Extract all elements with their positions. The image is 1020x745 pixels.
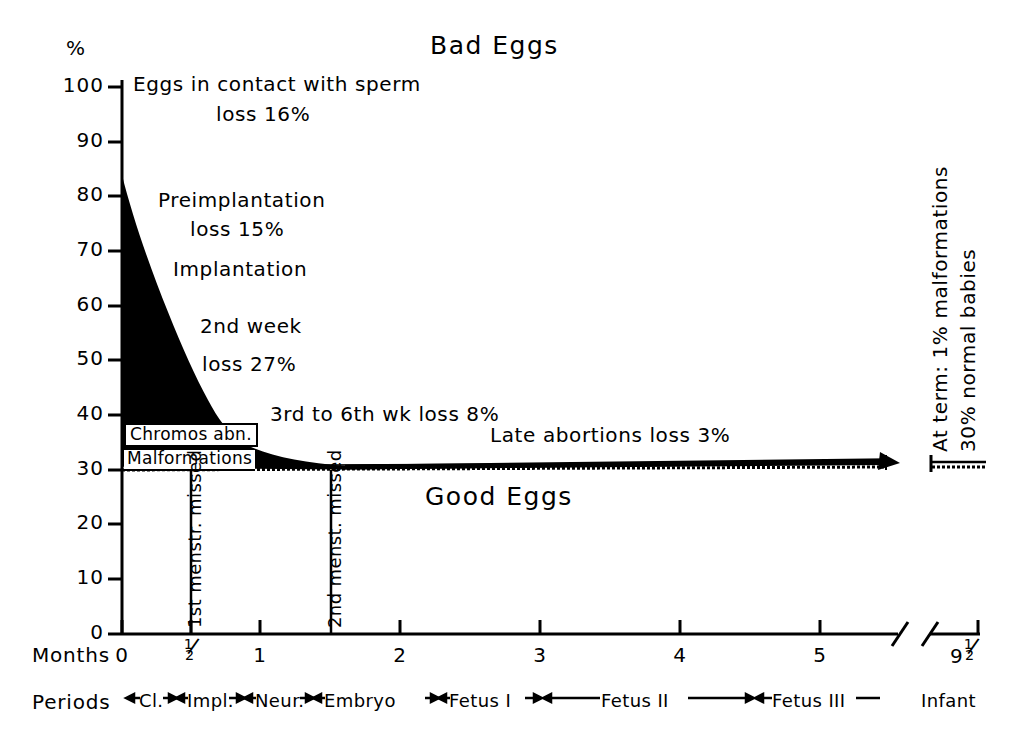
- x-tick-label-1: 1: [245, 645, 275, 666]
- period-label-embryo: Embryo: [324, 692, 396, 711]
- y-tick-label-20: 20: [58, 512, 104, 533]
- figure-canvas: % 100 90 80 70 60 50 40 30 20 10 0 Bad E…: [0, 0, 1020, 745]
- x-tick-label-5: 5: [805, 645, 835, 666]
- period-label-neur: Neur.: [255, 692, 304, 711]
- annotation-implantation: Implantation: [173, 259, 307, 280]
- annotation-late-abortions: Late abortions loss 3%: [490, 425, 730, 446]
- y-tick-label-60: 60: [58, 294, 104, 315]
- period-label-fetus-2: Fetus II: [601, 692, 669, 711]
- period-label-impl: Impl.: [187, 692, 234, 711]
- annotation-2nd-week-line1: 2nd week: [200, 316, 302, 337]
- period-label-fetus-1: Fetus I: [449, 692, 511, 711]
- label-chromos-abn: Chromos abn.: [124, 423, 258, 447]
- annotation-preimplantation-line2: loss 15%: [190, 219, 284, 240]
- x-tick-label-2: 2: [385, 645, 415, 666]
- x-axis-ticks: [122, 620, 978, 634]
- x-tick-label-4: 4: [665, 645, 695, 666]
- y-tick-label-90: 90: [58, 130, 104, 151]
- y-axis-unit-label: %: [66, 38, 86, 59]
- annotation-2nd-week-line2: loss 27%: [202, 354, 296, 375]
- x-axis-name: Months: [32, 645, 110, 666]
- fraction-one-half-2: 1/2: [964, 643, 978, 663]
- annotation-eggs-in-contact-line1: Eggs in contact with sperm: [133, 74, 421, 95]
- y-axis-ticks: [108, 87, 122, 634]
- label-2nd-menst-missed: 2nd menst. missed: [326, 450, 345, 629]
- x-tick-label-0: 0: [107, 645, 137, 666]
- chart-plot-area: [0, 0, 1020, 745]
- y-tick-label-30: 30: [58, 458, 104, 479]
- y-tick-label-50: 50: [58, 348, 104, 369]
- bad-eggs-arrowhead: [878, 452, 900, 470]
- y-tick-label-10: 10: [58, 567, 104, 588]
- period-label-cl: Cl.: [139, 692, 164, 711]
- y-tick-label-0: 0: [58, 622, 104, 643]
- annotation-eggs-in-contact-line2: loss 16%: [216, 104, 310, 125]
- label-at-term-normal-babies: 30% normal babies: [958, 249, 979, 452]
- y-tick-label-80: 80: [58, 184, 104, 205]
- fraction-one-half: 1/2: [184, 643, 198, 663]
- label-1st-menstr-missed: 1st menstr. missed: [186, 450, 205, 628]
- x-tick-label-9-half: 91/2: [950, 643, 978, 667]
- chart-title-good-eggs: Good Eggs: [425, 484, 573, 510]
- period-label-fetus-3: Fetus III: [772, 692, 846, 711]
- label-at-term-malformations: At term: 1% malformations: [930, 166, 951, 452]
- x-tick-label-3: 3: [525, 645, 555, 666]
- y-tick-label-70: 70: [58, 239, 104, 260]
- period-label-infant: Infant: [921, 692, 976, 711]
- x-tick-label-half: 1/2: [176, 643, 206, 667]
- annotation-3rd-to-6th-wk: 3rd to 6th wk loss 8%: [270, 404, 499, 425]
- infant-band: [930, 455, 986, 472]
- y-tick-label-100: 100: [58, 75, 104, 96]
- chart-title-bad-eggs: Bad Eggs: [430, 33, 559, 59]
- y-tick-label-40: 40: [58, 403, 104, 424]
- annotation-preimplantation-line1: Preimplantation: [158, 190, 325, 211]
